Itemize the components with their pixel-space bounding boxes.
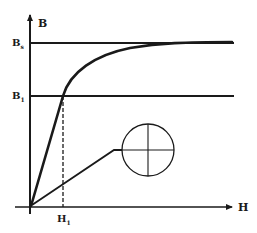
h1-label-main: H <box>57 213 66 224</box>
h1-label-sub: 1 <box>66 219 70 226</box>
bs-label-main: B <box>12 37 20 48</box>
h1-label: H1 <box>57 213 71 226</box>
bs-label-sub: s <box>20 43 24 50</box>
b1-label-main: B <box>12 90 20 101</box>
b-axis-label: B <box>38 17 47 30</box>
crosshair-circle <box>122 124 174 176</box>
bs-label: Bs <box>12 37 24 50</box>
b1-label: B1 <box>12 90 25 103</box>
magnetization-curve <box>31 42 232 206</box>
b1-label-sub: 1 <box>20 96 24 103</box>
bh-diagram: B H Bs B1 H1 <box>0 0 257 233</box>
h-axis-label: H <box>238 201 248 214</box>
